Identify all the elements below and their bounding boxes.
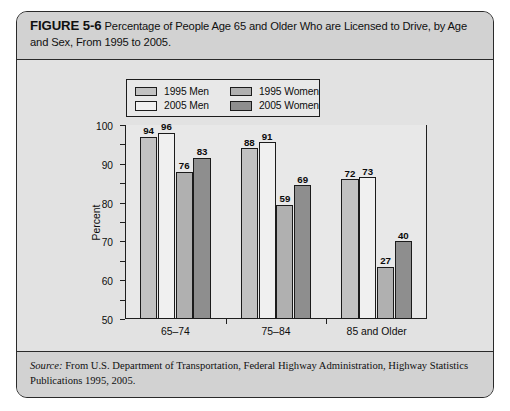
x-category-label: 85 and Older — [347, 326, 407, 337]
y-tick: 60 — [120, 203, 125, 204]
y-tick-label: 70 — [102, 237, 113, 248]
bar: 69 — [294, 185, 311, 319]
x-category-label: 75–84 — [262, 326, 291, 337]
y-tick-label: 100 — [96, 121, 113, 132]
chart-legend: 1995 Men 1995 Women 2005 Men 2005 Women — [126, 79, 320, 117]
figure-number-label: FIGURE 5-6 — [30, 18, 102, 33]
y-tick: 10 — [120, 300, 125, 301]
bar-value-label: 91 — [262, 131, 273, 142]
bar: 72 — [341, 179, 358, 319]
legend-row-2005: 2005 Men 2005 Women — [135, 99, 319, 114]
bar-value-label: 59 — [280, 193, 291, 204]
bar: 91 — [259, 142, 276, 319]
figure-caption-band: FIGURE 5-6 Percentage of People Age 65 a… — [17, 12, 493, 60]
legend-label-2005-men: 2005 Men — [164, 100, 209, 111]
bar-value-label: 76 — [179, 160, 190, 171]
bar-value-label: 96 — [161, 121, 172, 132]
y-tick: 90 — [120, 144, 125, 145]
figure-source: Source: From U.S. Department of Transpor… — [30, 359, 477, 388]
y-tick: 80 — [120, 164, 125, 165]
legend-label-1995-men: 1995 Men — [164, 86, 209, 97]
bar: 73 — [359, 177, 376, 319]
x-tick — [226, 319, 227, 324]
bar: 27 — [377, 267, 394, 319]
bar: 40 — [395, 241, 412, 319]
legend-item-1995-men[interactable]: 1995 Men — [135, 86, 230, 97]
bar-value-label: 94 — [143, 125, 154, 136]
y-tick: 50 — [120, 222, 125, 223]
bar-value-label: 69 — [297, 174, 308, 185]
figure-caption: FIGURE 5-6 Percentage of People Age 65 a… — [30, 18, 479, 50]
bar: 76 — [176, 172, 193, 319]
y-axis-title: Percent — [79, 125, 115, 319]
legend-row-1995: 1995 Men 1995 Women — [135, 84, 319, 99]
legend-swatch-1995-women — [230, 87, 252, 97]
bar: 94 — [140, 137, 157, 319]
y-tick: 70 — [120, 183, 125, 184]
bar-value-label: 88 — [244, 137, 255, 148]
x-tick — [326, 319, 327, 324]
bar: 59 — [276, 205, 293, 319]
bar: 88 — [241, 148, 258, 319]
legend-swatch-2005-men — [135, 101, 157, 111]
legend-swatch-2005-women — [230, 101, 252, 111]
plot-panel: 1995 Men 1995 Women 2005 Men 2005 Women — [17, 60, 493, 351]
source-body-text: From U.S. Department of Transportation, … — [30, 360, 468, 386]
bar-value-label: 83 — [197, 146, 208, 157]
bar: 83 — [193, 158, 210, 319]
figure-box: FIGURE 5-6 Percentage of People Age 65 a… — [16, 11, 494, 398]
legend-item-2005-women[interactable]: 2005 Women — [230, 100, 319, 111]
y-tick: 40 — [120, 241, 125, 242]
y-axis-title-text: Percent — [91, 204, 102, 240]
legend-swatch-1995-men — [135, 87, 157, 97]
y-tick-label: 60 — [102, 276, 113, 287]
y-tick: 100 — [120, 125, 125, 126]
legend-label-1995-women: 1995 Women — [259, 86, 319, 97]
bar-value-label: 73 — [362, 166, 373, 177]
y-tick: 30 — [120, 261, 125, 262]
legend-item-1995-women[interactable]: 1995 Women — [230, 86, 319, 97]
y-tick-label: 90 — [102, 159, 113, 170]
legend-label-2005-women: 2005 Women — [259, 100, 319, 111]
bar: 96 — [158, 133, 175, 319]
y-tick: 0 — [120, 319, 125, 320]
chart-plot-area: 0102030405060708090100 94967683889159697… — [125, 125, 427, 319]
bar-value-label: 40 — [398, 230, 409, 241]
y-tick-label: 80 — [102, 198, 113, 209]
source-word-label: Source: — [30, 360, 63, 371]
y-tick: 20 — [120, 280, 125, 281]
figure-source-band: Source: From U.S. Department of Transpor… — [17, 351, 493, 397]
x-category-label: 65–74 — [161, 326, 190, 337]
y-tick-label: 50 — [102, 315, 113, 326]
bar-value-label: 27 — [380, 255, 391, 266]
legend-item-2005-men[interactable]: 2005 Men — [135, 100, 230, 111]
bar-value-label: 72 — [345, 168, 356, 179]
